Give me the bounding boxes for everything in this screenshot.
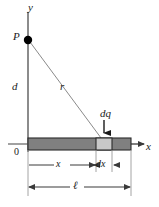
dx-dimension-label: dx: [96, 159, 105, 169]
distance-d-label: d: [12, 81, 18, 92]
distance-r-line: [30, 42, 104, 142]
y-axis-label: y: [28, 2, 33, 13]
origin-label: 0: [14, 147, 19, 157]
physics-diagram-figure: y P d r dq 0 x x dx ℓ: [0, 0, 159, 207]
x-axis-label: x: [146, 141, 151, 152]
diagram-canvas: [0, 0, 159, 207]
distance-r-label: r: [60, 81, 64, 92]
ell-dimension-label: ℓ: [73, 180, 78, 191]
charge-element-dq: [96, 138, 112, 150]
point-p-label: P: [13, 31, 20, 42]
charged-rod: [28, 138, 131, 150]
charge-element-label: dq: [100, 108, 111, 119]
x-dimension-label: x: [56, 159, 60, 169]
point-p-marker: [24, 36, 32, 44]
